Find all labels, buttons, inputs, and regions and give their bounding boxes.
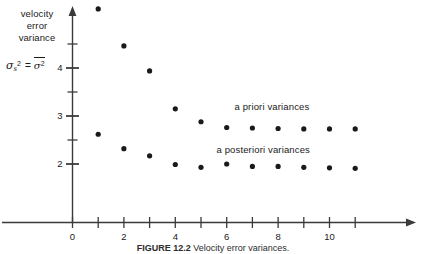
y-axis-caption: velocity error variance — [4, 8, 70, 45]
data-point — [198, 119, 203, 124]
figure-caption: FIGURE 12.2 Velocity error variances. — [0, 243, 426, 254]
data-point — [121, 146, 126, 151]
figure-caption-text: Velocity error variances. — [193, 243, 289, 253]
data-point — [121, 43, 126, 48]
data-point — [353, 166, 358, 171]
y-axis-caption-line-3: variance — [4, 32, 70, 44]
y-axis-caption-line-1: velocity — [4, 8, 70, 20]
data-point — [173, 162, 178, 167]
formula-overbar-group: σ2 — [34, 57, 45, 71]
data-point — [96, 6, 101, 11]
data-point — [147, 153, 152, 158]
data-point — [353, 126, 358, 131]
y-axis-caption-line-2: error — [4, 20, 70, 32]
formula-equals: = — [25, 60, 31, 71]
data-point — [198, 165, 203, 170]
x-axis-arrowhead — [406, 219, 416, 227]
data-point — [96, 132, 101, 137]
x-tick-label-2: 2 — [117, 232, 131, 242]
x-tick-label-6: 6 — [220, 232, 234, 242]
formula-sigma-symbol: σ — [6, 59, 14, 72]
y-tick-label-4: 4 — [49, 63, 63, 73]
x-tick-label-4: 4 — [168, 232, 182, 242]
data-point — [250, 125, 255, 130]
data-point — [327, 165, 332, 170]
x-tick-label-0: 0 — [66, 232, 80, 242]
y-tick-label-2: 2 — [49, 159, 63, 169]
formula-superscript: 2 — [17, 60, 21, 67]
series-label-a-priori: a priori variances — [234, 101, 309, 112]
data-point — [173, 106, 178, 111]
data-point — [276, 164, 281, 169]
formula-rhs-superscript: 2 — [41, 60, 45, 67]
data-point — [301, 165, 306, 170]
series-label-a-posteriori: a posteriori variances — [216, 144, 310, 155]
data-point — [301, 126, 306, 131]
data-point — [276, 126, 281, 131]
data-point — [224, 125, 229, 130]
series-a-priori-points — [96, 6, 358, 131]
x-tick-label-8: 8 — [271, 232, 285, 242]
data-point — [224, 161, 229, 166]
data-point — [250, 164, 255, 169]
figure-caption-number: FIGURE 12.2 — [137, 243, 191, 253]
y-tick-label-3: 3 — [49, 111, 63, 121]
y-axis-formula: σs2=σ2 — [6, 57, 45, 75]
x-tick-label-10: 10 — [323, 232, 337, 242]
data-point — [147, 68, 152, 73]
formula-rhs-sigma: σ — [34, 60, 41, 71]
data-point — [327, 126, 332, 131]
